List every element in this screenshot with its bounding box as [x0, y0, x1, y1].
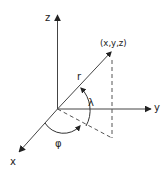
y-axis-label: y — [154, 102, 160, 113]
z-axis-label: z — [45, 12, 50, 23]
point-label: (x,y,z) — [100, 37, 127, 48]
radius-vector — [58, 52, 112, 109]
azimuth-angle-label: φ — [55, 138, 62, 149]
x-axis-label: x — [10, 156, 16, 167]
spherical-coordinate-diagram: z y x (x,y,z) r λ φ — [0, 0, 165, 176]
elevation-angle-label: λ — [88, 97, 94, 108]
azimuth-angle-arc — [45, 123, 80, 133]
radius-label: r — [77, 71, 82, 82]
